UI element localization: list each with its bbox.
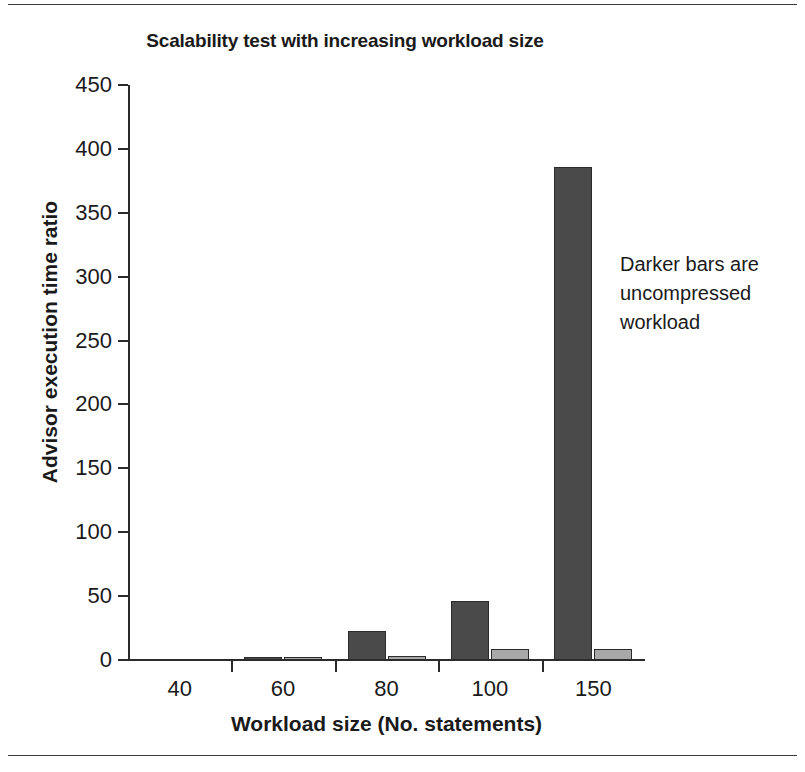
x-tick (231, 661, 233, 672)
y-tick (118, 84, 128, 86)
y-axis-label: Advisor execution time ratio (38, 62, 62, 622)
x-tick-label: 60 (238, 676, 328, 702)
bar (594, 649, 632, 661)
y-tick (118, 212, 128, 214)
y-tick (118, 148, 128, 150)
annotation-line-1: Darker bars are (620, 250, 800, 279)
y-tick (118, 403, 128, 405)
x-tick-label: 150 (548, 676, 638, 702)
y-tick (118, 467, 128, 469)
y-tick (118, 276, 128, 278)
x-tick (542, 661, 544, 672)
x-tick (438, 661, 440, 672)
x-tick-label: 80 (342, 676, 432, 702)
annotation-line-2: uncompressed (620, 279, 800, 308)
figure-container: Scalability test with increasing workloa… (0, 0, 805, 772)
bar (388, 656, 426, 660)
bar (284, 657, 322, 660)
x-tick (335, 661, 337, 672)
y-tick-label: 0 (36, 647, 112, 673)
bar (554, 167, 592, 660)
y-tick (118, 595, 128, 597)
bottom-divider-rule (8, 755, 797, 756)
x-tick-label: 40 (135, 676, 225, 702)
bar (348, 631, 386, 660)
bar (244, 657, 282, 660)
bar (451, 601, 489, 660)
top-divider-rule (8, 4, 797, 5)
bar (491, 649, 529, 661)
annotation-line-3: workload (620, 308, 800, 337)
chart-annotation: Darker bars are uncompressed workload (620, 250, 800, 337)
chart-title: Scalability test with increasing workloa… (0, 30, 690, 52)
y-tick (118, 340, 128, 342)
y-tick (118, 531, 128, 533)
plot-area (128, 85, 645, 660)
x-axis-label: Workload size (No. statements) (128, 712, 645, 736)
x-tick-label: 100 (445, 676, 535, 702)
y-tick (118, 659, 128, 661)
